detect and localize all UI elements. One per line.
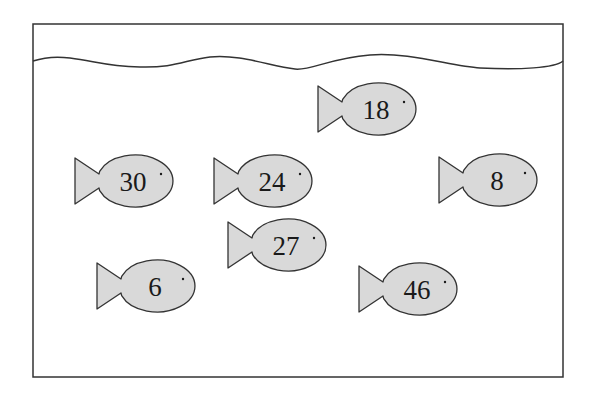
fish-number: 6 — [148, 272, 162, 302]
fish-tank-diagram: 18 30 24 8 27 6 46 — [0, 0, 595, 399]
fish-number: 8 — [490, 166, 504, 196]
fish-eye — [160, 173, 162, 175]
fish-eye — [313, 237, 315, 239]
fish-number: 46 — [404, 275, 431, 305]
fish-number: 24 — [259, 167, 287, 197]
fish-eye — [444, 281, 446, 283]
fish-number: 18 — [363, 95, 390, 125]
fish-number: 27 — [273, 231, 300, 261]
fish-eye — [299, 173, 301, 175]
fish-eye — [524, 172, 526, 174]
fish-number: 30 — [120, 167, 147, 197]
fish-eye — [182, 278, 184, 280]
fish-eye — [403, 101, 405, 103]
